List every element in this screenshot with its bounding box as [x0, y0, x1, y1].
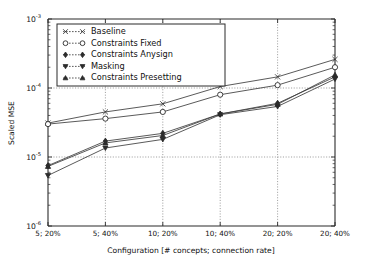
legend-label: Constraints Fixed: [91, 38, 162, 48]
x-tick-label: 5; 20%: [35, 229, 60, 238]
legend-label: Constraints Presetting: [91, 72, 182, 82]
circle-icon: [63, 41, 68, 46]
x-tick-label: 20; 20%: [263, 229, 293, 238]
legend-label: Masking: [91, 61, 125, 71]
data-point: [103, 116, 108, 121]
x-tick-label: 5; 40%: [93, 229, 118, 238]
x-tick-label: 10; 40%: [205, 229, 235, 238]
y-axis-title: Scaled MSE: [7, 101, 16, 145]
chart-container: 10-310-410-510-6 5; 20%5; 40%10; 20%10; …: [0, 0, 365, 266]
circle-icon: [80, 41, 85, 46]
data-point: [45, 121, 50, 126]
data-point: [332, 65, 337, 70]
data-point: [275, 83, 280, 88]
scaled-mse-line-chart: 10-310-410-510-6 5; 20%5; 40%10; 20%10; …: [0, 0, 365, 266]
data-point: [218, 92, 223, 97]
x-tick-label: 10; 20%: [148, 229, 178, 238]
legend-label: Baseline: [91, 26, 126, 36]
x-tick-label: 20; 40%: [320, 229, 350, 238]
data-point: [160, 109, 165, 114]
x-axis-title: Configuration [# concepts; connection ra…: [107, 246, 275, 255]
legend-label: Constraints Anysign: [91, 49, 173, 59]
chart-legend: BaselineConstraints FixedConstraints Any…: [57, 24, 225, 86]
